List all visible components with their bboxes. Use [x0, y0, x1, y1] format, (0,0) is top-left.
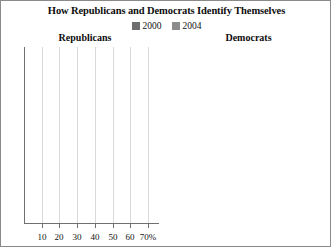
panel-democrats: Democrats [167, 32, 330, 243]
legend-item-2000: 2000 [132, 21, 162, 31]
panel-title-democrats: Democrats [167, 32, 330, 43]
y-axis-line [24, 47, 25, 224]
chart-legend: 2000 2004 [1, 21, 331, 31]
x-axis-line [24, 223, 159, 224]
plot-area-democrats [188, 47, 322, 224]
legend-item-2004: 2004 [172, 21, 202, 31]
panel-title-republicans: Republicans [3, 32, 167, 43]
plot-area-republicans: 10203040506070% [24, 47, 159, 224]
gridline [130, 47, 131, 223]
chart-title: How Republicans and Democrats Identify T… [1, 5, 331, 16]
axis-tick-label: 60 [126, 232, 135, 242]
legend-swatch-2000 [132, 22, 140, 30]
gridline [95, 47, 96, 223]
axis-tick [130, 224, 131, 228]
axis-tick-label: 70% [140, 232, 157, 242]
axis-tick-label: 40 [91, 232, 100, 242]
gridline [42, 47, 43, 223]
gridline [113, 47, 114, 223]
axis-tick [77, 224, 78, 228]
axis-tick [95, 224, 96, 228]
gridline [77, 47, 78, 223]
legend-label-2004: 2004 [183, 21, 202, 31]
axis-tick-label: 50 [109, 232, 118, 242]
panel-republicans: Republicans 10203040506070% [3, 32, 167, 243]
chart-figure: How Republicans and Democrats Identify T… [0, 0, 331, 247]
legend-label-2000: 2000 [143, 21, 162, 31]
axis-tick [148, 224, 149, 228]
gridline [59, 47, 60, 223]
axis-tick-label: 20 [55, 232, 64, 242]
legend-swatch-2004 [172, 22, 180, 30]
axis-tick-label: 10 [38, 232, 47, 242]
axis-tick [42, 224, 43, 228]
axis-tick [59, 224, 60, 228]
axis-tick [113, 224, 114, 228]
axis-tick-label: 30 [73, 232, 82, 242]
gridline [148, 47, 149, 223]
